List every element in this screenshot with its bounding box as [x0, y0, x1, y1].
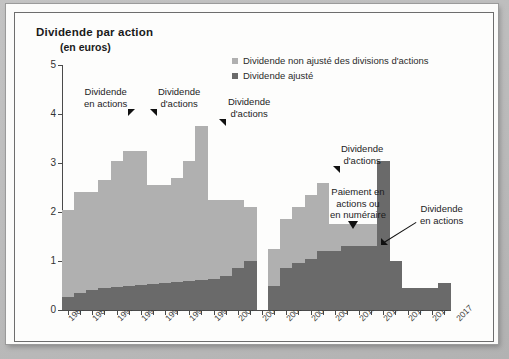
- annotation-arrow-icon: [150, 109, 157, 116]
- annotation-line: d'actions: [228, 108, 270, 120]
- annotation-dividende-daction-2: Dividende d'actions: [228, 96, 270, 119]
- bar: [329, 251, 342, 310]
- bar: [74, 293, 87, 310]
- annotation-line: Dividende: [158, 86, 200, 98]
- annotation-line: en actions: [420, 215, 463, 227]
- bar: [86, 290, 99, 310]
- bar: [111, 287, 124, 310]
- chart-screenshot: Dividende par action (en euros) Dividend…: [0, 0, 509, 359]
- annotation-line: Dividende: [420, 203, 463, 215]
- annotation-line: d'actions: [341, 155, 383, 167]
- bar: [402, 288, 415, 310]
- annotation-dividende-daction-3: Dividende d'actions: [341, 143, 383, 166]
- bar: [183, 281, 196, 310]
- annotation-arrow-icon: [333, 166, 340, 173]
- bar: [280, 268, 293, 310]
- annotation-line: en numéraire: [330, 209, 386, 221]
- bar: [268, 286, 281, 311]
- bar: [171, 282, 184, 310]
- bar: [438, 283, 451, 310]
- bar: [244, 261, 257, 310]
- annotation-arrow-icon: [128, 109, 135, 116]
- bar: [62, 210, 75, 310]
- chart-title: Dividende par action: [36, 26, 153, 38]
- annotation-arrow-icon: [348, 221, 358, 229]
- annotation-line: Dividende: [228, 96, 270, 108]
- y-axis-label: 2: [38, 206, 56, 217]
- bar: [62, 297, 75, 310]
- bar: [292, 263, 305, 310]
- annotation-line: en actions: [84, 98, 127, 110]
- bar: [414, 288, 427, 310]
- y-axis-label: 0: [38, 304, 56, 315]
- bar: [220, 276, 233, 310]
- bar: [147, 284, 160, 310]
- bar: [232, 268, 245, 310]
- y-axis-label: 5: [38, 59, 56, 70]
- y-axis-label: 4: [38, 108, 56, 119]
- annotation-arrow-icon: [219, 119, 226, 126]
- y-axis-tick: [58, 310, 62, 311]
- bar: [353, 246, 366, 310]
- annotation-line: Paiement en: [330, 186, 386, 198]
- bar: [195, 280, 208, 310]
- annotation-paiement-en-actions: Paiement en actions ou en numéraire: [330, 186, 386, 221]
- annotation-dividende-en-actions-2: Dividende en actions: [420, 203, 463, 226]
- annotation-line: actions ou: [330, 198, 386, 210]
- bar: [135, 285, 148, 310]
- annotation-line: d'actions: [158, 98, 200, 110]
- annotation-dividende-daction-1: Dividende d'actions: [158, 86, 200, 109]
- bar: [123, 286, 136, 311]
- bar: [305, 259, 318, 310]
- bar: [389, 261, 402, 310]
- bar: [317, 251, 330, 310]
- bar: [98, 288, 111, 310]
- bar: [341, 246, 354, 310]
- legend-swatch-unadjusted: [232, 58, 238, 64]
- chart-subtitle: (en euros): [60, 41, 111, 53]
- annotation-line: Dividende: [341, 143, 383, 155]
- bar: [377, 161, 390, 310]
- bar: [365, 246, 378, 310]
- annotation-arrow-icon: [381, 238, 388, 245]
- y-axis-label: 3: [38, 157, 56, 168]
- bar: [208, 279, 221, 310]
- annotation-dividende-en-actions-1: Dividende en actions: [84, 86, 127, 109]
- y-axis-label: 1: [38, 255, 56, 266]
- bar: [159, 283, 172, 310]
- annotation-line: Dividende: [84, 86, 127, 98]
- bar: [426, 288, 439, 310]
